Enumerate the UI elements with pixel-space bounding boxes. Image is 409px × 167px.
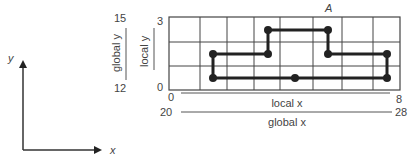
x-axis-label: x xyxy=(109,144,116,156)
local-y-min: 0 xyxy=(157,81,163,93)
y-axis-label: y xyxy=(7,52,15,64)
path-polygon xyxy=(209,26,391,82)
global-y-max: 15 xyxy=(114,12,126,24)
grid-diagram: y x 15 12 global y 3 0 local y xyxy=(0,0,409,167)
local-y-max: 3 xyxy=(157,15,163,27)
global-x-min: 20 xyxy=(160,106,172,118)
local-x-axis: 0 8 local x xyxy=(168,91,402,109)
local-y-axis: 3 0 local y xyxy=(138,15,163,93)
global-x-label: global x xyxy=(268,116,306,128)
label-a: A xyxy=(324,2,332,14)
global-y-min: 12 xyxy=(114,82,126,94)
reference-axes: y x xyxy=(7,52,116,156)
global-x-axis: 20 28 global x xyxy=(160,106,407,128)
global-y-axis: 15 12 global y xyxy=(110,12,126,94)
global-y-label: global y xyxy=(110,34,122,72)
local-x-max: 8 xyxy=(396,93,402,105)
local-x-min: 0 xyxy=(168,91,174,103)
local-x-label: local x xyxy=(271,97,303,109)
global-x-max: 28 xyxy=(395,106,407,118)
local-y-label: local y xyxy=(138,35,150,67)
